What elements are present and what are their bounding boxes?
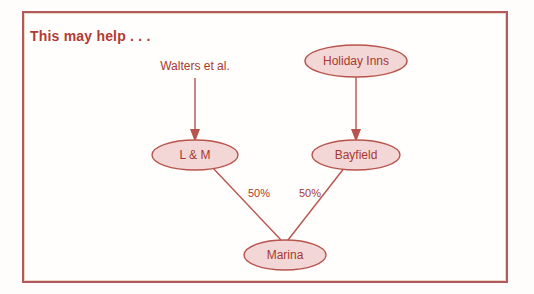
edge-walters-to-lm [190, 78, 200, 142]
slide-canvas: This may help . . . Walters et al. Holid… [0, 0, 534, 294]
edge-label-lm-to-marina: 50% [248, 187, 270, 199]
node-holiday-inns[interactable]: Holiday Inns [305, 45, 407, 77]
edge-lm-to-marina [212, 167, 281, 240]
ownership-diagram: Walters et al. Holiday Inns Bayfield L &… [0, 0, 534, 294]
node-lm[interactable]: L & M [152, 140, 238, 170]
label-walters-et-al: Walters et al. [160, 59, 230, 73]
node-bayfield[interactable]: Bayfield [312, 140, 400, 170]
node-holiday-inns-label: Holiday Inns [323, 54, 389, 68]
edge-holiday-inns-to-bayfield [351, 77, 361, 142]
node-marina-label: Marina [267, 248, 304, 262]
node-marina[interactable]: Marina [244, 240, 326, 270]
node-lm-label: L & M [180, 148, 211, 162]
node-bayfield-label: Bayfield [335, 148, 378, 162]
edge-label-bayfield-to-marina: 50% [299, 187, 321, 199]
edge-bayfield-to-marina [288, 167, 345, 240]
